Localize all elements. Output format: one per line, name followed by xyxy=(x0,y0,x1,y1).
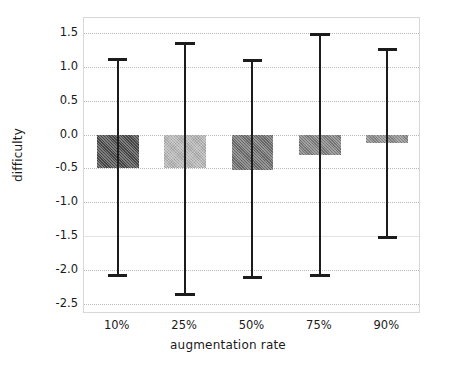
x-axis-tick-label: 90% xyxy=(356,318,416,332)
chart-figure: difficulty 1.51.00.50.0-0.5-1.0-1.5-2.0-… xyxy=(0,0,456,372)
error-bar xyxy=(366,48,408,239)
error-bar-stem xyxy=(117,58,119,277)
error-bar xyxy=(97,58,139,277)
y-axis-tick-label: 1.0 xyxy=(34,59,78,73)
y-axis-tick-label: -2.5 xyxy=(34,296,78,310)
x-axis-tick-label: 50% xyxy=(222,318,282,332)
error-bar-cap-bottom xyxy=(175,293,194,296)
error-bar-cap-top xyxy=(243,59,262,62)
x-axis-tick-label: 75% xyxy=(289,318,349,332)
error-bar xyxy=(232,59,274,280)
error-bar-cap-top xyxy=(175,42,194,45)
x-axis-tick-label: 10% xyxy=(87,318,147,332)
error-bar-cap-bottom xyxy=(310,274,329,277)
x-axis-title: augmentation rate xyxy=(0,338,456,352)
error-bar-stem xyxy=(319,33,321,278)
y-axis-tick-labels: 1.51.00.50.0-0.5-1.0-1.5-2.0-2.5 xyxy=(30,17,78,313)
y-axis-title-text: difficulty xyxy=(11,128,25,182)
error-bar-cap-top xyxy=(378,48,397,51)
error-bar-stem xyxy=(184,42,186,297)
error-bar-cap-top xyxy=(310,33,329,36)
y-axis-tick-label: -2.0 xyxy=(34,262,78,276)
y-axis-tick-label: -0.5 xyxy=(34,160,78,174)
error-bar-cap-bottom xyxy=(108,274,127,277)
error-bar-cap-top xyxy=(108,58,127,61)
error-bar-cap-bottom xyxy=(243,276,262,279)
x-axis-title-text: augmentation rate xyxy=(170,338,286,352)
y-axis-tick-label: 0.0 xyxy=(34,127,78,141)
error-bar xyxy=(299,33,341,278)
x-axis-tick-label: 25% xyxy=(154,318,214,332)
error-bar-cap-bottom xyxy=(378,236,397,239)
y-axis-tick-label: -1.0 xyxy=(34,194,78,208)
y-axis-title: difficulty xyxy=(6,0,30,310)
gridline xyxy=(84,33,419,34)
y-axis-tick-label: -1.5 xyxy=(34,228,78,242)
plot-area xyxy=(83,17,420,313)
error-bar-stem xyxy=(251,59,253,280)
error-bar xyxy=(164,42,206,297)
y-axis-tick-label: 1.5 xyxy=(34,25,78,39)
error-bar-stem xyxy=(386,48,388,239)
gridline xyxy=(84,304,419,305)
y-axis-tick-label: 0.5 xyxy=(34,93,78,107)
